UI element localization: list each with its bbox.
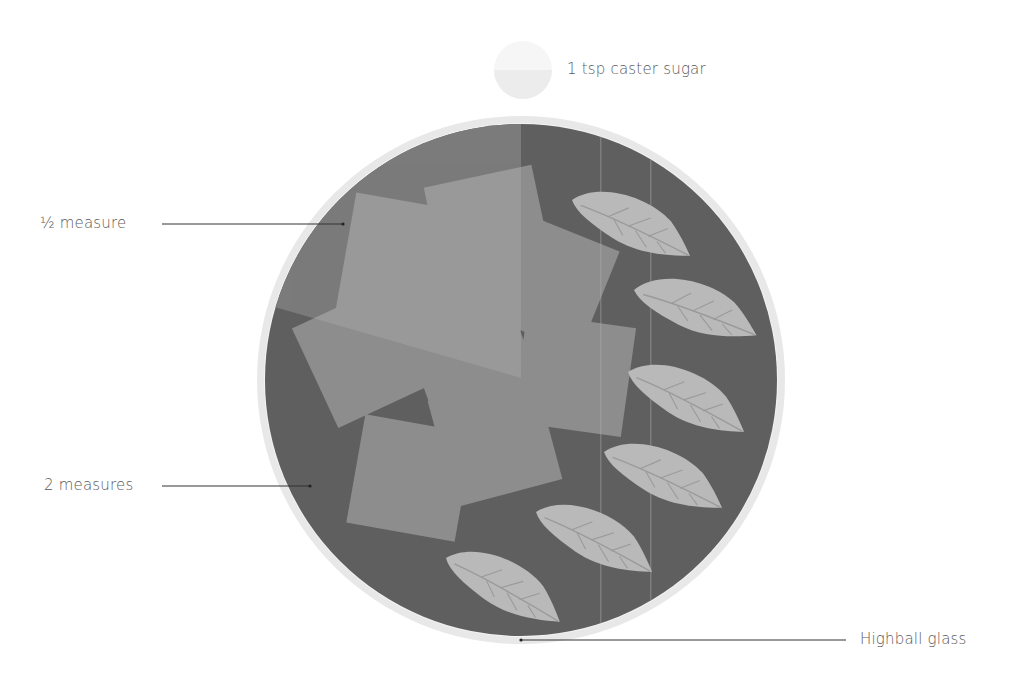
label-two-measures: 2 measures: [44, 476, 134, 494]
sugar-spoon-icon: [494, 41, 552, 99]
label-highball-glass: Highball glass: [860, 630, 967, 648]
label-half-measure: ½ measure: [40, 214, 127, 232]
cocktail-diagram: [0, 0, 1032, 683]
label-sugar: 1 tsp caster sugar: [567, 60, 706, 78]
glass-contents: [250, 110, 810, 650]
